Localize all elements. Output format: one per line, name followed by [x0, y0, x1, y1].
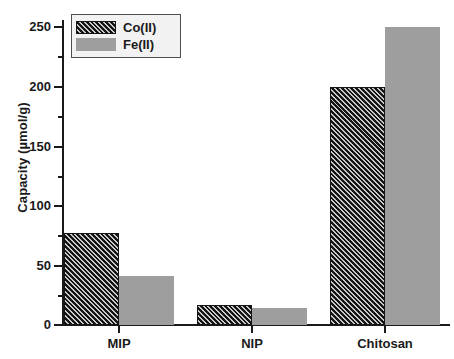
legend-swatch-coii-hatch-icon: [76, 21, 116, 34]
bar-nip-feii: [252, 308, 307, 325]
bars-layer: [0, 0, 454, 325]
legend-item-feii: Fe(II): [76, 36, 175, 53]
legend-swatch-feii-solid-icon: [76, 38, 116, 51]
bar-chitosan-coii: [330, 87, 385, 325]
bar-nip-coii: [197, 305, 252, 325]
bar-mip-feii: [119, 276, 174, 325]
bar-mip-coii: [64, 233, 119, 325]
legend-label-coii: Co(II): [123, 21, 156, 34]
bar-chitosan-feii: [385, 27, 440, 325]
x-tick-label-mip: MIP: [59, 336, 179, 351]
x-tick-chitosan: [384, 326, 386, 333]
bar-chart: Capacity (µmol/g) 250 200 150 100 50 0 M…: [0, 0, 454, 359]
legend-label-feii: Fe(II): [123, 38, 154, 51]
x-tick-mip: [118, 326, 120, 333]
legend-item-coii: Co(II): [76, 19, 175, 36]
x-tick-label-chitosan: Chitosan: [325, 336, 445, 351]
x-tick-nip: [251, 326, 253, 333]
x-tick-label-nip: NIP: [192, 336, 312, 351]
chart-legend: Co(II) Fe(II): [71, 14, 181, 58]
